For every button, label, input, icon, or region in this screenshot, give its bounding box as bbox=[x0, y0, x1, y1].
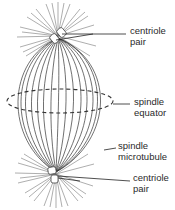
label-line: centriole bbox=[130, 25, 166, 36]
label-line: spindle bbox=[134, 96, 166, 107]
spindle-microtubules bbox=[18, 38, 101, 172]
bottom-centriole-pointer bbox=[58, 176, 130, 181]
label-spindle-equator: spindle equator bbox=[134, 96, 166, 118]
label-line: equator bbox=[134, 107, 166, 118]
label-line: pair bbox=[133, 183, 169, 194]
label-spindle-microtubule: spindle microtubule bbox=[118, 140, 167, 162]
label-line: centriole bbox=[133, 172, 169, 183]
top-aster-rays bbox=[17, 2, 96, 56]
label-line: microtubule bbox=[118, 151, 167, 162]
label-bottom-centriole-pair: centriole pair bbox=[133, 172, 169, 194]
label-top-centriole-pair: centriole pair bbox=[130, 25, 166, 47]
microtubule-pointer bbox=[104, 148, 116, 150]
label-line: pair bbox=[130, 36, 166, 47]
label-line: spindle bbox=[118, 140, 167, 151]
